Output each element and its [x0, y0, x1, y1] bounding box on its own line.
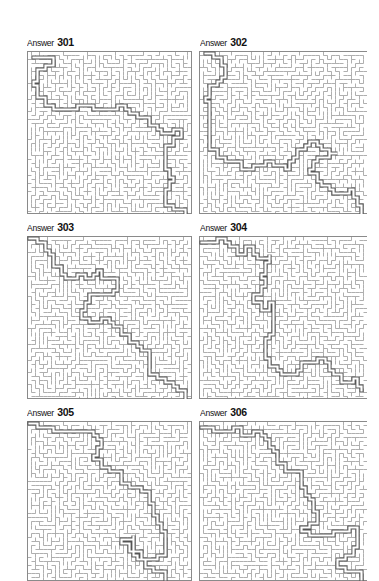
maze-solution-302 — [199, 51, 367, 214]
answer-word: Answer — [200, 407, 227, 418]
answer-number: 303 — [57, 221, 74, 233]
answer-label-302: Answer 302 — [200, 37, 247, 48]
answer-word: Answer — [27, 407, 54, 418]
answer-number: 304 — [230, 221, 247, 233]
answer-label-305: Answer 305 — [27, 407, 74, 418]
answer-number: 301 — [57, 36, 74, 48]
answer-number: 305 — [57, 406, 74, 418]
answer-label-304: Answer 304 — [200, 222, 247, 233]
maze-solution-305 — [27, 421, 193, 581]
answer-label-306: Answer 306 — [200, 407, 247, 418]
maze-solution-304 — [199, 236, 367, 399]
maze-solution-306 — [199, 421, 367, 581]
answer-word: Answer — [200, 222, 227, 233]
answer-number: 306 — [230, 406, 247, 418]
answer-number: 302 — [230, 36, 247, 48]
maze-solution-303 — [27, 236, 193, 399]
answer-word: Answer — [27, 222, 54, 233]
answer-word: Answer — [200, 37, 227, 48]
maze-solution-301 — [27, 51, 193, 214]
answer-word: Answer — [27, 37, 54, 48]
answer-label-301: Answer 301 — [27, 37, 74, 48]
answer-label-303: Answer 303 — [27, 222, 74, 233]
